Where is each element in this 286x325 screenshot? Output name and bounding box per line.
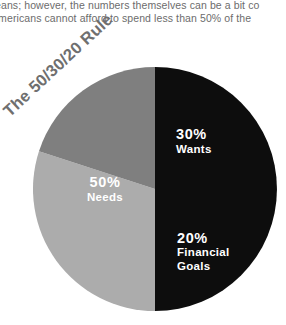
pie-label-financial-goals-value: 20%: [177, 230, 257, 246]
pie-chart: [33, 67, 277, 311]
pie-label-needs-value: 50%: [74, 174, 136, 190]
pie-label-financial-goals: 20% Financial Goals: [177, 230, 257, 273]
pie-label-wants-value: 30%: [176, 126, 246, 142]
pie-label-financial-goals-name-line-2: Goals: [177, 260, 257, 274]
pie-chart-svg: [33, 67, 277, 311]
pie-label-wants: 30% Wants: [176, 126, 246, 156]
pie-chart-figure: The 50/30/20 Rule 50% Needs 30% Wants 20…: [0, 0, 286, 325]
pie-label-needs: 50% Needs: [74, 174, 136, 204]
pie-label-wants-name: Wants: [176, 142, 246, 156]
pie-label-needs-name: Needs: [74, 190, 136, 204]
pie-slice-needs: [155, 67, 277, 311]
pie-label-financial-goals-name-line-1: Financial: [177, 246, 257, 260]
